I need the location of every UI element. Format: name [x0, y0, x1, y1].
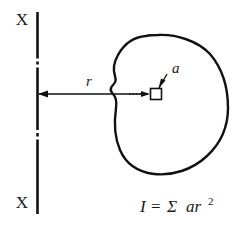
- axis-label-top: X: [16, 10, 28, 29]
- elemental-area-label: a: [172, 60, 180, 76]
- axis-label-bottom: X: [16, 193, 28, 212]
- moment-of-inertia-diagram: X X r a I = Σ ar 2: [0, 0, 235, 230]
- formula-equals: =: [151, 197, 161, 216]
- formula-term-base: ar: [186, 197, 202, 216]
- canvas-background: [0, 0, 235, 230]
- formula-sigma: Σ: [166, 197, 177, 216]
- figure-root: X X r a I = Σ ar 2: [0, 0, 235, 230]
- formula-term-exponent: 2: [208, 195, 214, 207]
- radius-label: r: [86, 73, 92, 89]
